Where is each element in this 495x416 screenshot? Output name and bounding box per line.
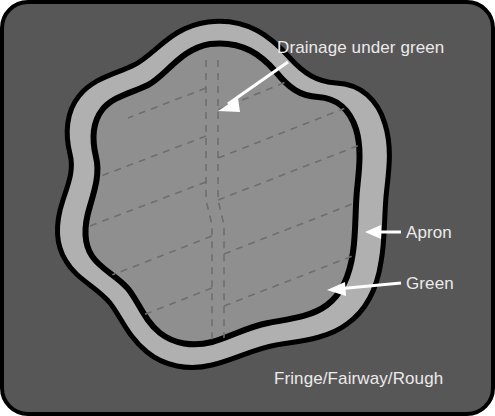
green-label: Green (406, 274, 454, 293)
green-drainage-diagram: Drainage under green Apron Green Fringe/… (0, 0, 495, 416)
apron-label: Apron (406, 223, 452, 242)
drainage-label: Drainage under green (277, 38, 444, 57)
diagram-canvas: Drainage under green Apron Green Fringe/… (0, 0, 495, 416)
rough-label: Fringe/Fairway/Rough (274, 369, 443, 388)
